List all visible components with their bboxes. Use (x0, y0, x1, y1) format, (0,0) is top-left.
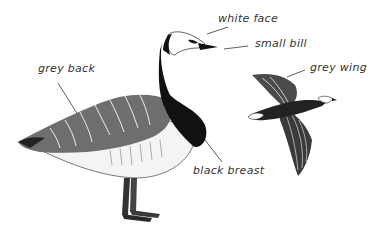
label-small-bill: small bill (255, 37, 307, 50)
goose-illustration (0, 0, 379, 227)
label-white-face: white face (218, 12, 278, 25)
standing-goose-icon (18, 32, 218, 222)
label-grey-wing: grey wing (310, 61, 367, 74)
flying-goose-icon (248, 74, 337, 176)
label-black-breast: black breast (193, 164, 264, 177)
label-grey-back: grey back (38, 62, 95, 75)
goose-diagram: white face small bill grey back grey win… (0, 0, 379, 227)
